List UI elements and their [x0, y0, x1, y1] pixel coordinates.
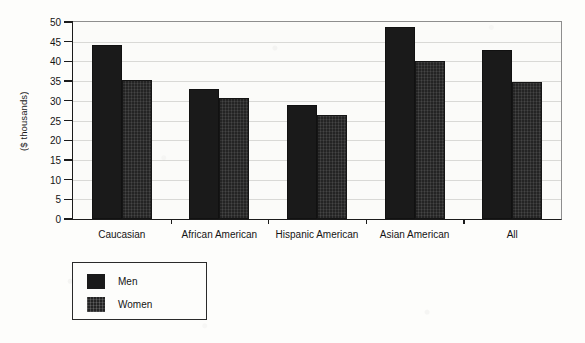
legend-item-men: Men [87, 271, 206, 292]
legend-swatch-men [87, 274, 105, 289]
y-tick-label: 45 [50, 36, 61, 47]
y-tick-label: 0 [55, 214, 61, 225]
y-tick-label: 35 [50, 76, 61, 87]
y-tick [64, 120, 73, 121]
bar-hispanic-american-men [287, 105, 317, 219]
legend-item-women: Women [87, 294, 206, 315]
bar-all-women [512, 82, 542, 219]
bar-chart-figure: ($ thousands) 05101520253035404550 Cauca… [0, 0, 585, 343]
x-tick-label: All [507, 229, 518, 240]
x-tick [268, 219, 269, 224]
bar-caucasian-women [122, 80, 152, 219]
x-tick-label: Asian American [380, 229, 449, 240]
y-tick [64, 80, 73, 81]
legend-label: Men [118, 276, 137, 287]
y-tick [64, 61, 73, 62]
bar-african-american-men [189, 89, 219, 219]
x-tick-label: Hispanic American [276, 229, 359, 240]
y-tick-label: 25 [50, 115, 61, 126]
bar-caucasian-men [92, 45, 122, 219]
x-tick [366, 219, 367, 224]
y-tick [64, 21, 73, 22]
legend-swatch-women [87, 297, 105, 312]
y-tick-label: 15 [50, 154, 61, 165]
bar-asian-american-women [415, 61, 445, 219]
y-tick-label: 40 [50, 56, 61, 67]
legend-label: Women [118, 299, 152, 310]
bar-african-american-women [219, 98, 249, 219]
y-tick-label: 20 [50, 135, 61, 146]
y-tick [64, 140, 73, 141]
y-tick-label: 30 [50, 95, 61, 106]
x-tick [171, 219, 172, 224]
bar-all-men [482, 50, 512, 219]
y-tick [64, 159, 73, 160]
legend: MenWomen [72, 262, 207, 320]
y-tick [64, 100, 73, 101]
gridline [73, 42, 561, 43]
y-tick-label: 10 [50, 174, 61, 185]
y-tick [64, 179, 73, 180]
y-tick [64, 41, 73, 42]
bar-hispanic-american-women [317, 115, 347, 219]
y-tick [64, 218, 73, 219]
y-tick-label: 50 [50, 17, 61, 28]
x-tick [463, 219, 464, 224]
plot-area: 05101520253035404550 CaucasianAfrican Am… [72, 21, 562, 220]
y-tick-label: 5 [55, 194, 61, 205]
x-tick-label: Caucasian [98, 229, 145, 240]
x-tick-label: African American [182, 229, 258, 240]
y-axis-title: ($ thousands) [16, 74, 32, 168]
bar-asian-american-men [385, 27, 415, 219]
y-tick [64, 199, 73, 200]
